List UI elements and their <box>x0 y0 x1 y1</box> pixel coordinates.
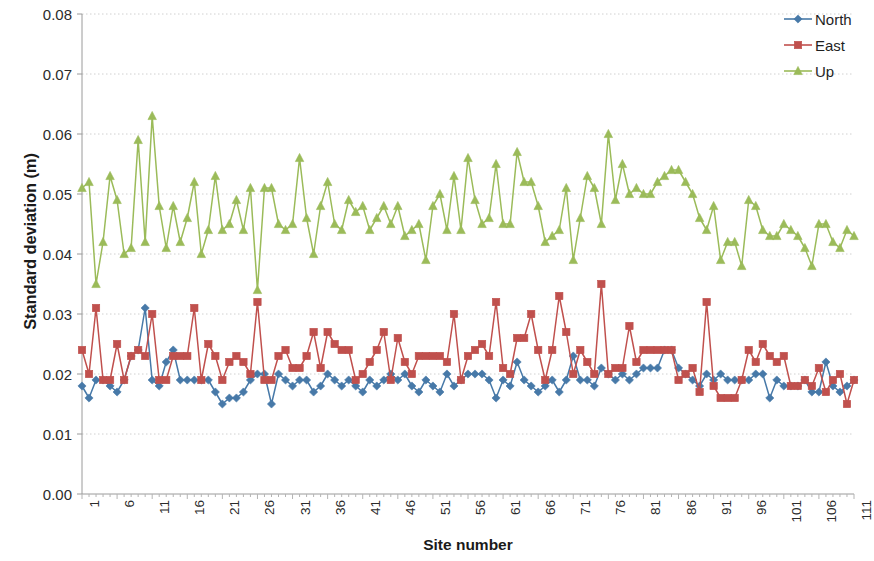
data-point-marker <box>632 183 640 191</box>
data-point-marker <box>170 352 177 359</box>
chart-legend: NorthEastUp <box>782 6 862 84</box>
data-point-marker <box>563 328 570 335</box>
data-point-marker <box>204 225 212 233</box>
data-point-marker <box>205 340 212 347</box>
data-point-marker <box>422 255 430 263</box>
data-point-marker <box>822 358 830 366</box>
data-point-marker <box>141 352 148 359</box>
data-point-marker <box>401 358 408 365</box>
data-point-marker <box>85 370 92 377</box>
data-point-marker <box>366 225 374 233</box>
data-point-marker <box>499 364 506 371</box>
data-point-marker <box>408 370 415 377</box>
data-point-marker <box>612 364 619 371</box>
data-point-marker <box>359 370 366 377</box>
data-point-marker <box>485 352 492 359</box>
data-point-marker <box>148 111 156 119</box>
data-point-marker <box>247 370 254 377</box>
data-point-marker <box>584 358 591 365</box>
data-point-marker <box>282 346 289 353</box>
data-point-marker <box>577 346 584 353</box>
data-point-marker <box>570 370 577 377</box>
data-point-marker <box>675 376 682 383</box>
data-point-marker <box>345 346 352 353</box>
data-point-marker <box>513 147 521 155</box>
data-point-marker <box>415 219 423 227</box>
data-point-marker <box>296 364 303 371</box>
data-point-marker <box>668 346 675 353</box>
data-point-marker <box>324 328 331 335</box>
data-point-marker <box>464 153 472 161</box>
data-point-marker <box>611 195 619 203</box>
data-point-marker <box>302 376 310 384</box>
data-point-marker <box>443 225 451 233</box>
data-point-marker <box>555 388 563 396</box>
data-point-marker <box>288 219 296 227</box>
data-point-marker <box>134 346 141 353</box>
data-point-marker <box>183 213 191 221</box>
data-point-marker <box>253 285 261 293</box>
x-axis-ticks <box>82 494 854 499</box>
data-point-marker <box>162 243 170 251</box>
data-point-marker <box>604 129 612 137</box>
data-point-marker <box>387 376 394 383</box>
legend-item-up[interactable]: Up <box>782 58 862 84</box>
data-point-marker <box>695 213 703 221</box>
data-point-marker <box>366 358 373 365</box>
data-point-marker <box>773 358 780 365</box>
data-point-marker <box>380 328 387 335</box>
data-point-marker <box>323 177 331 185</box>
data-point-marker <box>358 201 366 209</box>
legend-label: Up <box>815 63 834 80</box>
data-point-marker <box>233 352 240 359</box>
data-point-marker <box>527 310 534 317</box>
data-point-marker <box>141 237 149 245</box>
data-point-marker <box>85 177 93 185</box>
data-point-marker <box>787 382 794 389</box>
data-point-marker <box>506 370 513 377</box>
data-point-marker <box>429 352 436 359</box>
data-point-marker <box>464 352 471 359</box>
data-point-marker <box>261 376 268 383</box>
data-point-marker <box>443 358 450 365</box>
data-point-marker <box>542 376 549 383</box>
data-point-marker <box>808 382 815 389</box>
data-point-marker <box>801 243 809 251</box>
series-east <box>78 280 857 407</box>
data-point-marker <box>254 298 261 305</box>
data-point-marker <box>745 346 752 353</box>
data-point-marker <box>394 201 402 209</box>
data-point-marker <box>99 376 106 383</box>
data-point-marker <box>239 225 247 233</box>
data-point-marker <box>163 376 170 383</box>
legend-item-north[interactable]: North <box>782 6 862 32</box>
data-point-marker <box>471 346 478 353</box>
data-point-marker <box>759 340 766 347</box>
series-up <box>78 111 858 293</box>
data-point-marker <box>211 388 219 396</box>
data-point-marker <box>176 237 184 245</box>
data-point-marker <box>590 183 598 191</box>
data-point-marker <box>275 352 282 359</box>
data-point-marker <box>794 382 801 389</box>
legend-label: East <box>815 37 845 54</box>
data-point-marker <box>184 352 191 359</box>
data-point-marker <box>309 249 317 257</box>
data-point-marker <box>330 219 338 227</box>
legend-label: North <box>815 11 852 28</box>
data-point-marker <box>738 376 745 383</box>
data-point-marker <box>85 394 93 402</box>
data-point-marker <box>99 237 107 245</box>
data-point-marker <box>850 376 857 383</box>
data-point-marker <box>562 183 570 191</box>
data-point-marker <box>219 376 226 383</box>
data-point-marker <box>156 376 163 383</box>
legend-item-east[interactable]: East <box>782 32 862 58</box>
data-point-marker <box>190 177 198 185</box>
data-point-marker <box>737 261 745 269</box>
data-point-marker <box>766 352 773 359</box>
data-point-marker <box>534 346 541 353</box>
data-point-marker <box>106 171 114 179</box>
data-point-marker <box>492 394 500 402</box>
